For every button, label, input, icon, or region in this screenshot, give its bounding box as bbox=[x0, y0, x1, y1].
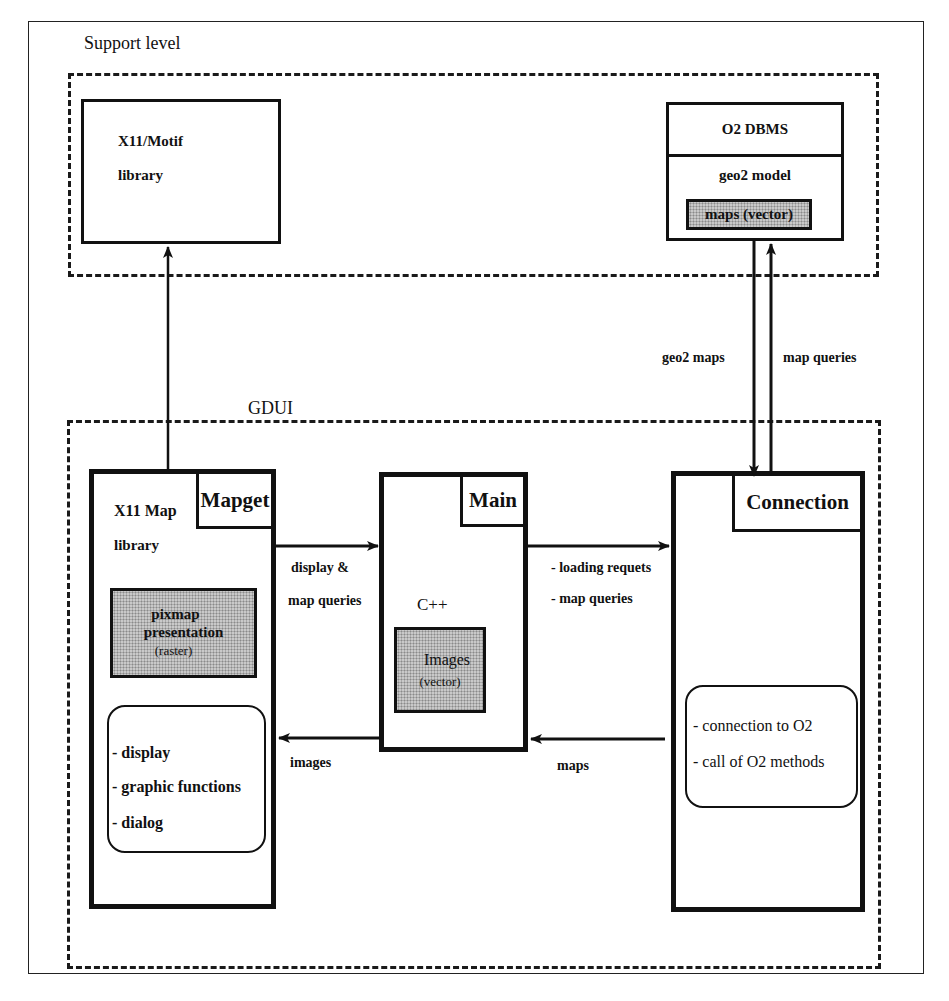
edge-label-maps: maps bbox=[557, 758, 589, 774]
edge-label-map-queries-vertical: map queries bbox=[783, 350, 857, 366]
edge-label-geo2-maps: geo2 maps bbox=[662, 350, 725, 366]
edge-label-images: images bbox=[290, 755, 331, 771]
arrows-layer bbox=[0, 0, 949, 1001]
edge-label-map-queries-left: map queries bbox=[288, 593, 362, 609]
edge-label-display: display & bbox=[291, 560, 349, 576]
edge-label-map-queries-right: - map queries bbox=[551, 591, 633, 607]
edge-label-loading-requests: - loading requets bbox=[551, 560, 651, 576]
